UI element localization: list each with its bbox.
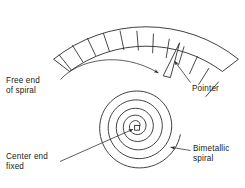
spiral-curve <box>100 91 181 168</box>
scale-tick <box>178 46 184 65</box>
scale-tick <box>137 31 139 51</box>
scale-tick <box>72 45 82 62</box>
scale-tick <box>199 68 210 85</box>
label-free-end: Free end of spiral <box>6 76 40 96</box>
center-hub-square <box>135 125 140 130</box>
label-bimetallic-spiral: Bimetallic spiral <box>193 144 230 164</box>
scale-tick <box>153 34 154 54</box>
leader-pointer <box>175 61 191 83</box>
leader-free-end <box>61 60 159 80</box>
scale-tick <box>87 38 95 56</box>
bimetallic-spiral <box>100 91 181 168</box>
leader-center-end <box>60 129 133 161</box>
scale-tick <box>120 31 124 50</box>
scale-band-outline <box>54 27 239 72</box>
scale-tick <box>103 33 109 52</box>
scale-tick <box>189 56 197 74</box>
label-pointer: Pointer <box>192 84 219 94</box>
label-center-end: Center end fixed <box>6 152 48 172</box>
